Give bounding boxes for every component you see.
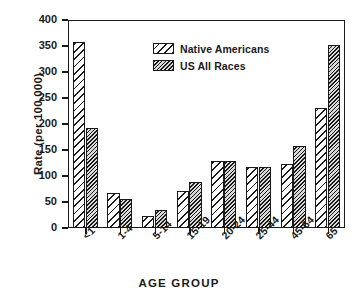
y-tick-label: 150 — [39, 143, 57, 155]
bar-native-americans-1-4 — [107, 193, 119, 228]
y-tick-mark — [62, 175, 68, 176]
bar-us-all-races-<1 — [86, 128, 98, 228]
legend-item-us-all-races: US All Races — [153, 59, 269, 72]
bar-native-americans-15-19 — [177, 191, 189, 228]
bar-us-all-races-65 — [328, 45, 340, 228]
y-tick-mark — [62, 19, 68, 20]
bar-native-americans-65 — [315, 108, 327, 228]
y-tick-label: 50 — [45, 195, 57, 207]
y-tick-mark — [62, 71, 68, 72]
y-tick-label: 100 — [39, 169, 57, 181]
x-axis-title: AGE GROUP — [0, 277, 358, 289]
y-tick-mark — [62, 227, 68, 228]
y-tick-mark — [62, 149, 68, 150]
bar-native-americans-<1 — [73, 42, 85, 228]
y-tick-label: 300 — [39, 65, 57, 77]
chart-legend: Native AmericansUS All Races — [153, 42, 269, 76]
legend-label: Native Americans — [180, 43, 269, 55]
bar-native-americans-20-24 — [211, 161, 223, 228]
y-tick-label: 200 — [39, 117, 57, 129]
bar-native-americans-5-14 — [142, 216, 154, 228]
y-tick-label: 0 — [51, 221, 57, 233]
y-tick-mark — [62, 123, 68, 124]
bar-chart: Rate (per 100,000) 050100150200250300350… — [0, 0, 358, 305]
y-tick-mark — [62, 97, 68, 98]
y-tick-mark — [62, 45, 68, 46]
legend-item-native-americans: Native Americans — [153, 42, 269, 55]
legend-label: US All Races — [180, 60, 246, 72]
bar-native-americans-45-64 — [281, 164, 293, 228]
bar-native-americans-25-44 — [246, 167, 258, 228]
legend-swatch-icon — [153, 60, 174, 71]
y-tick-mark — [62, 201, 68, 202]
y-tick-label: 400 — [39, 13, 57, 25]
y-tick-label: 250 — [39, 91, 57, 103]
legend-swatch-icon — [153, 43, 174, 54]
y-tick-label: 350 — [39, 39, 57, 51]
